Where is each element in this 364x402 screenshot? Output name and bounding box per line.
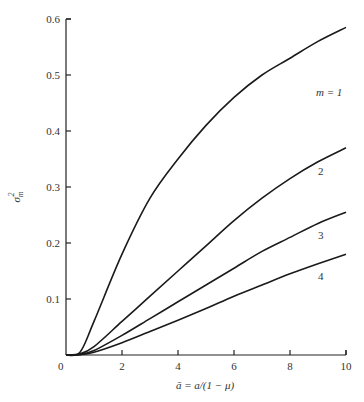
curve-m1 xyxy=(66,27,346,355)
axes xyxy=(66,19,346,355)
y-title-sup: 2 xyxy=(7,192,16,196)
y-tick-label: 0.3 xyxy=(46,181,60,193)
y-tick-label: 0.2 xyxy=(46,237,60,249)
curve-m4 xyxy=(66,254,346,355)
x-axis-title: ā = a/(1 − μ) xyxy=(176,379,235,392)
y-axis-title: σm2 xyxy=(7,191,25,202)
x-tick-label: 6 xyxy=(231,360,237,372)
x-tick-label: 8 xyxy=(287,360,293,372)
curve-label-m3: 3 xyxy=(318,229,324,241)
chart: 0.10.20.30.40.50.6 246810 0 σm2 ā = a/(1… xyxy=(0,0,364,402)
curve-label-m4: 4 xyxy=(318,270,324,282)
curve-label-m1: m = 1 xyxy=(316,86,342,98)
curve-label-m2: 2 xyxy=(318,165,324,177)
origin-label: 0 xyxy=(58,360,64,372)
y-tick-label: 0.5 xyxy=(46,69,60,81)
curves xyxy=(66,27,346,355)
x-tick-label: 2 xyxy=(119,360,125,372)
y-tick-label: 0.4 xyxy=(46,125,60,137)
svg-text:σm2: σm2 xyxy=(7,191,25,202)
y-title-sub: m xyxy=(16,191,25,197)
x-tick-label: 10 xyxy=(341,360,353,372)
y-tick-label: 0.1 xyxy=(46,293,60,305)
y-ticks: 0.10.20.30.40.50.6 xyxy=(46,13,71,305)
x-tick-label: 4 xyxy=(175,360,181,372)
curve-m2 xyxy=(66,148,346,355)
y-tick-label: 0.6 xyxy=(46,13,60,25)
x-ticks: 246810 xyxy=(119,350,352,372)
